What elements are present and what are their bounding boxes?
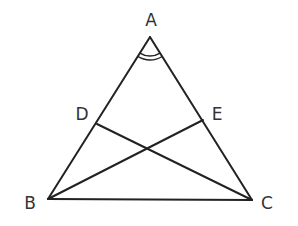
segment-eb	[48, 120, 203, 199]
angle-arc	[138, 56, 162, 60]
label-a: A	[145, 12, 157, 29]
label-c: C	[261, 195, 273, 212]
segment-ab	[48, 37, 150, 199]
label-d: D	[75, 106, 88, 123]
label-b: B	[24, 195, 36, 212]
angle-arc	[140, 53, 160, 56]
angle-mark-a	[138, 53, 162, 60]
triangle-diagram	[0, 0, 298, 226]
label-e: E	[212, 106, 223, 123]
segment-bc	[48, 199, 252, 200]
